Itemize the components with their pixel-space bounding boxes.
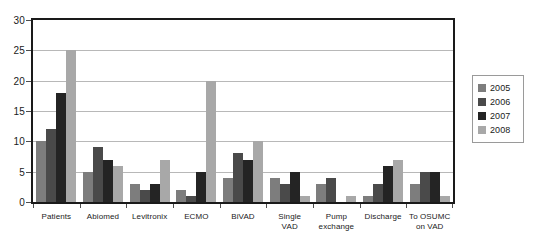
bar [83, 172, 93, 202]
bar [253, 141, 263, 202]
legend-swatch [478, 98, 486, 106]
legend-swatch [478, 84, 486, 92]
bar-group [266, 20, 313, 202]
bar [393, 160, 403, 202]
legend-item[interactable]: 2008 [478, 123, 519, 137]
x-axis-tick-mark [33, 204, 34, 208]
y-axis-tick-label: 5 [19, 166, 25, 177]
x-axis-tick-mark [360, 204, 361, 208]
bar [290, 172, 300, 202]
bar [410, 184, 420, 202]
bar-group [33, 20, 80, 202]
bar [46, 129, 56, 202]
bar [243, 160, 253, 202]
bar [186, 196, 196, 202]
x-axis-tick-label: Discharge [360, 212, 407, 222]
bar [326, 178, 336, 202]
y-axis-tick-label: 10 [13, 136, 25, 147]
x-axis-category: SingleVAD [266, 204, 313, 248]
x-axis-tick-mark [313, 204, 314, 208]
bar [373, 184, 383, 202]
bar-group [80, 20, 127, 202]
x-axis-tick-mark [406, 204, 407, 208]
bar [316, 184, 326, 202]
bar-chart: 302520151050 PatientsAbiomedLevitronixEC… [0, 0, 537, 248]
x-axis-category: Discharge [360, 204, 407, 248]
bar-group [173, 20, 220, 202]
bar [93, 147, 103, 202]
y-axis-tick-label: 25 [13, 45, 25, 56]
bar [346, 196, 356, 202]
bar [270, 178, 280, 202]
x-axis-category: Levitronix [126, 204, 173, 248]
legend-item[interactable]: 2007 [478, 109, 519, 123]
x-axis-category: BiVAD [220, 204, 267, 248]
y-axis-tick-label: 30 [13, 15, 25, 26]
bar-group [313, 20, 360, 202]
legend-item[interactable]: 2005 [478, 81, 519, 95]
bar [36, 141, 46, 202]
legend-swatch [478, 112, 486, 120]
bar-group [406, 20, 453, 202]
bar [206, 81, 216, 202]
bar [430, 172, 440, 202]
y-axis-tick-label: 0 [19, 197, 25, 208]
bar-group [220, 20, 267, 202]
bar [280, 184, 290, 202]
bar [140, 190, 150, 202]
x-axis-tick-label: Pumpexchange [313, 212, 360, 231]
x-axis-category: To OSUMCon VAD [406, 204, 453, 248]
legend-label: 2006 [490, 97, 510, 107]
x-axis-tick-label: Patients [33, 212, 80, 222]
bar-group [126, 20, 173, 202]
bar [300, 196, 310, 202]
x-axis-tick-mark [80, 204, 81, 208]
bar [176, 190, 186, 202]
bar-group [360, 20, 407, 202]
x-axis-tick-mark [126, 204, 127, 208]
bar [103, 160, 113, 202]
x-axis-tick-mark [173, 204, 174, 208]
x-axis-tick-label: Abiomed [80, 212, 127, 222]
bar [130, 184, 140, 202]
y-axis: 302520151050 [0, 18, 31, 204]
bar [363, 196, 373, 202]
x-axis-category: Patients [33, 204, 80, 248]
x-axis-tick-label: ECMO [173, 212, 220, 222]
x-axis: PatientsAbiomedLevitronixECMOBiVADSingle… [33, 204, 453, 248]
bar [160, 160, 170, 202]
bar [56, 93, 66, 202]
bar [440, 196, 450, 202]
legend: 2005200620072008 [472, 75, 524, 143]
x-axis-tick-label: To OSUMCon VAD [406, 212, 453, 231]
legend-label: 2005 [490, 83, 510, 93]
y-axis-tick-label: 20 [13, 75, 25, 86]
x-axis-tick-label: SingleVAD [266, 212, 313, 231]
x-axis-tick-mark [452, 204, 453, 208]
y-axis-tick-label: 15 [13, 106, 25, 117]
x-axis-category: Pumpexchange [313, 204, 360, 248]
bar [223, 178, 233, 202]
bar [66, 50, 76, 202]
legend-item[interactable]: 2006 [478, 95, 519, 109]
x-axis-tick-mark [220, 204, 221, 208]
bar [113, 166, 123, 202]
x-axis-category: ECMO [173, 204, 220, 248]
x-axis-tick-label: Levitronix [126, 212, 173, 222]
x-axis-category: Abiomed [80, 204, 127, 248]
legend-swatch [478, 126, 486, 134]
legend-label: 2007 [490, 111, 510, 121]
x-axis-tick-label: BiVAD [220, 212, 267, 222]
bar [196, 172, 206, 202]
x-axis-tick-mark [266, 204, 267, 208]
legend-label: 2008 [490, 125, 510, 135]
bar [233, 153, 243, 202]
bar [420, 172, 430, 202]
bar [150, 184, 160, 202]
bar-groups [33, 20, 453, 202]
bar [383, 166, 393, 202]
